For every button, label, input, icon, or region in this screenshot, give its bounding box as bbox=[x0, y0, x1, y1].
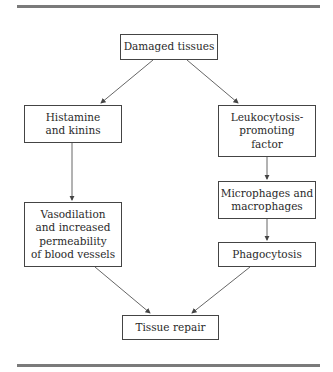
edge-damaged-leukocytosis bbox=[187, 60, 238, 103]
bottom-rule bbox=[17, 364, 320, 367]
node-microphages-macrophages: Microphages and macrophages bbox=[218, 181, 316, 219]
edge-phagocytosis-repair bbox=[192, 267, 250, 313]
node-vasodilation: Vasodilation and increased permeability … bbox=[24, 202, 122, 267]
node-damaged-tissues: Damaged tissues bbox=[120, 34, 218, 60]
edge-damaged-histamine bbox=[101, 60, 153, 103]
node-tissue-repair: Tissue repair bbox=[122, 315, 219, 340]
node-histamine-kinins: Histamine and kinins bbox=[24, 105, 122, 143]
node-leukocytosis-factor: Leukocytosis- promoting factor bbox=[218, 105, 316, 157]
node-phagocytosis: Phagocytosis bbox=[218, 242, 316, 267]
edge-vasodilation-repair bbox=[95, 267, 150, 313]
